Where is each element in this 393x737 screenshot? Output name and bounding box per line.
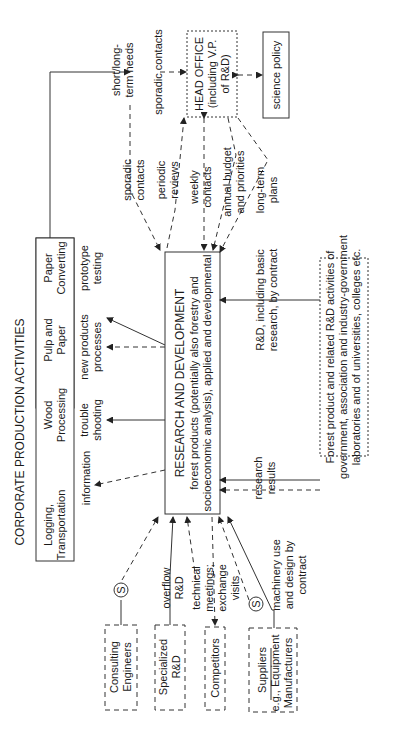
svg-text:processes: processes: [91, 321, 103, 372]
svg-text:Converting: Converting: [55, 241, 67, 294]
svg-text:prototype: prototype: [78, 245, 90, 291]
machinery-use-arrow: [228, 517, 274, 628]
svg-text:machinery use: machinery use: [270, 539, 282, 611]
svg-text:Processing: Processing: [55, 388, 67, 442]
svg-text:sporadic: sporadic: [121, 159, 133, 201]
rd-box-text: RESEARCH AND DEVELOPMENT forest products…: [173, 255, 213, 512]
org-diagram: CORPORATE PRODUCTION ACTIVITIES Logging,…: [0, 0, 393, 737]
svg-text:weekly: weekly: [188, 170, 200, 205]
svg-text:government, association and in: government, association and industry-gov…: [337, 235, 349, 479]
svg-text:CORPORATE PRODUCTION ACTIVITIE: CORPORATE PRODUCTION ACTIVITIES: [13, 318, 27, 545]
svg-text:periodic: periodic: [155, 160, 167, 199]
svg-text:laboratories and of universiti: laboratories and of universities, colleg…: [350, 249, 362, 465]
svg-text:and priorities: and priorities: [234, 150, 246, 213]
svg-text:Pulp and: Pulp and: [42, 318, 54, 361]
svg-text:information: information: [80, 451, 92, 505]
svg-text:long-term: long-term: [254, 167, 266, 213]
svg-text:(including V.P.: (including V.P.: [206, 40, 218, 109]
svg-text:Transportation: Transportation: [55, 490, 67, 561]
svg-text:Specialized: Specialized: [157, 639, 169, 695]
svg-text:reviews: reviews: [168, 161, 180, 199]
s-marker-consulting-label: S: [115, 586, 127, 593]
svg-text:exchange: exchange: [216, 564, 228, 612]
svg-text:Wood: Wood: [42, 401, 54, 430]
svg-text:overflow: overflow: [160, 567, 172, 608]
svg-text:shooting: shooting: [91, 399, 103, 441]
svg-text:contacts: contacts: [201, 166, 213, 207]
svg-text:results: results: [265, 461, 277, 494]
svg-text:visits: visits: [229, 575, 241, 600]
svg-text:sporadic contacts: sporadic contacts: [152, 29, 164, 115]
svg-text:Engineers: Engineers: [121, 642, 133, 692]
science-policy-label: science policy: [270, 40, 282, 109]
svg-text:term needs: term needs: [123, 42, 135, 98]
svg-text:R&D: R&D: [170, 655, 182, 678]
svg-text:of R&D): of R&D): [219, 54, 231, 93]
svg-text:meetings;: meetings;: [203, 564, 215, 612]
svg-text:contract: contract: [296, 555, 308, 594]
prototype-testing-arrow: [107, 318, 165, 345]
svg-text:contacts: contacts: [134, 159, 146, 200]
svg-text:annual budget: annual budget: [221, 147, 233, 217]
consulting-engineers-arrow: [122, 517, 158, 580]
s-marker-suppliers-label: S: [250, 600, 262, 607]
svg-text:new products: new products: [78, 314, 90, 380]
svg-text:RESEARCH AND DEVELOPMENT: RESEARCH AND DEVELOPMENT: [173, 288, 187, 477]
svg-text:trouble: trouble: [78, 403, 90, 437]
svg-text:short/long-: short/long-: [110, 44, 122, 96]
svg-text:Forest product and related R&D: Forest product and related R&D activitie…: [324, 250, 336, 464]
production-to-top-line: [50, 72, 110, 238]
svg-text:research: research: [252, 457, 264, 500]
svg-text:Suppliers: Suppliers: [256, 647, 268, 693]
svg-text:testing: testing: [91, 252, 103, 284]
svg-text:plans: plans: [267, 176, 279, 203]
svg-text:Logging,: Logging,: [42, 504, 54, 546]
svg-text:HEAD OFFICE: HEAD OFFICE: [193, 37, 205, 111]
svg-text:Consulting: Consulting: [108, 641, 120, 693]
svg-text:e.g., Equipment: e.g., Equipment: [269, 634, 281, 711]
external-rd-text: Forest product and related R&D activitie…: [324, 235, 362, 479]
information-arrow: [95, 470, 165, 485]
svg-text:Paper: Paper: [42, 253, 54, 283]
svg-text:research, by contract: research, by contract: [267, 249, 279, 352]
svg-text:R&D, including basic: R&D, including basic: [254, 249, 266, 351]
svg-text:Competitors: Competitors: [209, 638, 221, 698]
svg-text:technical: technical: [190, 566, 202, 609]
svg-text:socioeconomic analysis), appli: socioeconomic analysis), applied and dev…: [201, 255, 213, 512]
diagram-title: CORPORATE PRODUCTION ACTIVITIES: [13, 318, 27, 545]
svg-text:and design by: and design by: [283, 540, 295, 609]
svg-text:forest products (potentially a: forest products (potentially also forest…: [188, 276, 200, 489]
svg-text:Paper: Paper: [55, 325, 67, 355]
svg-text:R&D: R&D: [173, 576, 185, 599]
svg-text:Manufacturers: Manufacturers: [282, 637, 294, 708]
